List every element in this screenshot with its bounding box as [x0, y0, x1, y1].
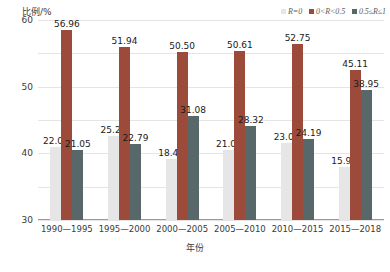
- bar[interactable]: 50.50: [177, 52, 188, 220]
- y-axis-tick-label: 60: [22, 15, 33, 25]
- chart-legend: R=0 0<R<0.5 0.5≤R≤1: [281, 7, 386, 16]
- bar-group: 25.2751.9422.79: [96, 20, 154, 220]
- bar[interactable]: 18.42: [166, 159, 177, 220]
- x-axis-tick-label: 1995—2000: [96, 224, 154, 234]
- x-axis-tick-labels: 1990—19951995—20002000—20052005—20102010…: [38, 224, 384, 234]
- legend-item-r-between-0.5-and-1: 0.5≤R≤1: [352, 7, 386, 16]
- bar-slot: 22.00: [50, 147, 61, 220]
- bar-slot: 24.19: [303, 139, 314, 220]
- bar-value-label: 38.95: [353, 79, 379, 89]
- legend-swatch-r-between-0.5-and-1: [352, 9, 357, 14]
- bar[interactable]: 50.61: [234, 51, 245, 220]
- plot-area: 0102030405060 22.0056.9621.0525.2751.942…: [38, 20, 384, 220]
- bar-slot: 15.94: [339, 167, 350, 220]
- legend-item-r-between-0-and-0.5: 0<R<0.5: [309, 7, 345, 16]
- legend-swatch-r-equals-0: [281, 9, 286, 14]
- bar-group: 15.9445.1138.95: [326, 20, 384, 220]
- x-axis-title: 年份: [0, 241, 390, 254]
- bar[interactable]: 23.07: [281, 143, 292, 220]
- legend-label-r-between-0-and-0.5: 0<R<0.5: [316, 7, 345, 16]
- bar-group: 18.4250.5031.08: [153, 20, 211, 220]
- bar-slot: 50.50: [177, 52, 188, 220]
- x-axis-tick-label: 2010—2015: [269, 224, 327, 234]
- bar-slot: 25.27: [108, 136, 119, 220]
- bar-groups: 22.0056.9621.0525.2751.9422.7918.4250.50…: [38, 20, 384, 220]
- bar[interactable]: 38.95: [361, 90, 372, 220]
- gridline: 0: [38, 220, 384, 221]
- bar-value-label: 28.32: [238, 115, 264, 125]
- bar-value-label: 50.61: [227, 40, 253, 50]
- bar-value-label: 21.05: [65, 139, 91, 149]
- bar-value-label: 52.75: [285, 33, 311, 43]
- bar-group: 22.0056.9621.05: [38, 20, 96, 220]
- bar-chart: R=0 0<R<0.5 0.5≤R≤1 比例/% 0102030405060 2…: [0, 0, 390, 272]
- bar-value-label: 51.94: [112, 36, 138, 46]
- bar-slot: 38.95: [361, 90, 372, 220]
- bar-slot: 28.32: [245, 126, 256, 220]
- bar-slot: 23.07: [281, 143, 292, 220]
- bar-slot: 21.05: [72, 150, 83, 220]
- bar[interactable]: 31.08: [188, 116, 199, 220]
- y-axis-tick-label: 40: [22, 148, 33, 158]
- bar-slot: 45.11: [350, 70, 361, 220]
- bar-group: 21.0650.6128.32: [211, 20, 269, 220]
- bar[interactable]: 56.96: [61, 30, 72, 220]
- bar[interactable]: 45.11: [350, 70, 361, 220]
- bar-slot: 21.06: [223, 150, 234, 220]
- x-axis-tick-label: 2015—2018: [326, 224, 384, 234]
- y-axis-tick-label: 30: [22, 215, 33, 225]
- bar-value-label: 50.50: [169, 41, 195, 51]
- bar[interactable]: 22.00: [50, 147, 61, 220]
- bar[interactable]: 15.94: [339, 167, 350, 220]
- bar[interactable]: 28.32: [245, 126, 256, 220]
- bar[interactable]: 21.06: [223, 150, 234, 220]
- legend-item-r-equals-0: R=0: [281, 7, 302, 16]
- bar[interactable]: 22.79: [130, 144, 141, 220]
- legend-label-r-between-0.5-and-1: 0.5≤R≤1: [359, 7, 386, 16]
- x-axis-tick-label: 2000—2005: [153, 224, 211, 234]
- bar-value-label: 24.19: [296, 128, 322, 138]
- y-axis-tick-label: 50: [22, 82, 33, 92]
- bar-slot: 56.96: [61, 30, 72, 220]
- bar-group: 23.0752.7524.19: [269, 20, 327, 220]
- bar-value-label: 45.11: [342, 59, 368, 69]
- bar-value-label: 56.96: [54, 19, 80, 29]
- bar-value-label: 22.79: [123, 133, 149, 143]
- bar-slot: 22.79: [130, 144, 141, 220]
- bar-slot: 50.61: [234, 51, 245, 220]
- bar-slot: 31.08: [188, 116, 199, 220]
- bar-slot: 18.42: [166, 159, 177, 220]
- legend-label-r-equals-0: R=0: [288, 7, 302, 16]
- x-axis-tick-label: 2005—2010: [211, 224, 269, 234]
- legend-swatch-r-between-0-and-0.5: [309, 9, 314, 14]
- bar-value-label: 31.08: [180, 105, 206, 115]
- bar[interactable]: 25.27: [108, 136, 119, 220]
- x-axis-tick-label: 1990—1995: [38, 224, 96, 234]
- bar[interactable]: 24.19: [303, 139, 314, 220]
- bar[interactable]: 21.05: [72, 150, 83, 220]
